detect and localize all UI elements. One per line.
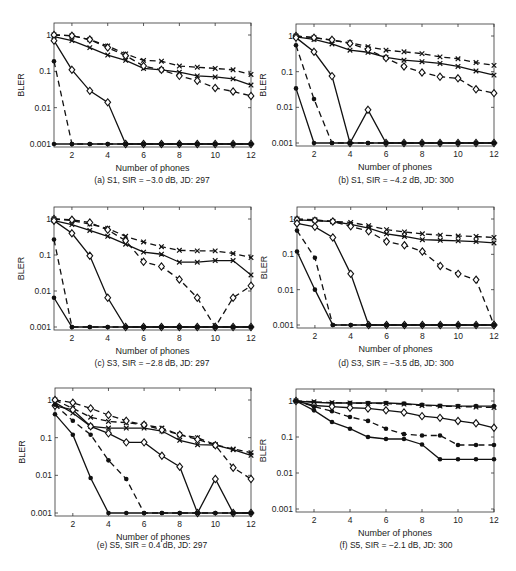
panel-b-xtick-label: 2 — [312, 149, 317, 159]
panel-e-point-solid-dot — [249, 511, 254, 516]
panel-f-caption: (f) S5, SIR = −2.1 dB, JD: 300 — [340, 540, 453, 550]
panel-a-series-dashed-dot — [52, 59, 254, 146]
panel-c-xtick-label: 10 — [210, 333, 220, 343]
panel-a-point-solid-dot — [195, 142, 200, 147]
panel-a-ylabel: BLER — [16, 73, 26, 97]
panel-b-point-dashed-diamond — [473, 86, 479, 93]
panel-c-point-dashed-x — [195, 249, 200, 254]
panel-b-point-dashed-diamond — [437, 73, 443, 80]
panel-c-series-dashed-dot — [52, 237, 254, 329]
panel-f-point-solid-diamond — [365, 405, 371, 412]
panel-d-point-solid-dot — [492, 323, 497, 328]
panel-e-point-solid-dot — [88, 476, 93, 481]
panel-c-series-dashed-diamond — [51, 215, 254, 330]
panel-b-point-dashed-diamond — [455, 75, 461, 82]
panel-f-point-solid-diamond — [473, 420, 479, 427]
panel-d-point-dashed-diamond — [402, 242, 408, 249]
panel-e-point-solid-diamond — [106, 430, 112, 437]
panel-f-point-solid-diamond — [437, 414, 443, 421]
panel-b-series-solid-x — [294, 34, 497, 77]
panel-d-point-dashed-dot — [313, 255, 318, 260]
panel-f-point-dashed-dot — [330, 409, 335, 414]
panel-b-point-solid-dot — [348, 141, 353, 146]
panel-f-point-solid-dot — [294, 399, 299, 404]
panel-d-ytick-label: 0.001 — [273, 320, 295, 330]
panel-c-point-solid-dot — [177, 325, 182, 330]
panel-b-line-solid-diamond — [296, 38, 494, 143]
panel-d: (d) S3, SIR = −3.5 dB, JD: 300 10.10.010… — [259, 207, 499, 368]
panel-c-xtick-label: 12 — [246, 333, 256, 343]
panel-b-series-solid-dot — [294, 86, 497, 145]
panel-a-point-solid-dot — [105, 142, 110, 147]
panel-d-point-solid-dot — [313, 287, 318, 292]
panel-e-point-dashed-diamond — [70, 399, 76, 406]
panel-c-point-solid-dot — [141, 325, 146, 330]
panel-c-ytick-label: 0.001 — [30, 322, 52, 332]
panel-f-point-solid-dot — [312, 408, 317, 413]
panel-d-ylabel: BLER — [259, 255, 269, 279]
panel-c-point-solid-dot — [231, 325, 236, 330]
panel-b-point-solid-dot — [402, 141, 407, 146]
panel-b-xtick-label: 6 — [384, 149, 389, 159]
panel-d-xtick-label: 10 — [453, 331, 463, 341]
panel-f-xtick-label: 10 — [453, 515, 463, 525]
panel-a-point-solid-dot — [70, 142, 75, 147]
panel-b-point-solid-dot — [492, 141, 497, 146]
panel-d-line-solid-diamond — [297, 223, 494, 325]
panel-d-xtick-label: 8 — [420, 331, 425, 341]
panel-e-point-solid-diamond — [141, 439, 147, 446]
panel-e-ytick-label: 0.1 — [40, 433, 52, 443]
panel-a-xtick-label: 8 — [177, 150, 182, 160]
panel-d-point-solid-dot — [366, 323, 371, 328]
panel-e-point-solid-dot — [231, 511, 236, 516]
panel-e-point-solid-dot — [142, 511, 147, 516]
panel-e-line-solid-x — [55, 403, 251, 456]
panel-d-line-solid-dot — [297, 252, 494, 325]
panel-b-point-solid-dot — [366, 141, 371, 146]
panel-b-point-solid-dot — [456, 141, 461, 146]
panel-b-ytick-label: 0.01 — [276, 102, 293, 112]
panel-d-xtick-label: 2 — [313, 331, 318, 341]
panel-c: (c) S3, SIR = −2.8 dB, JD: 297 10.10.010… — [16, 207, 256, 368]
panel-c-axes-frame — [54, 207, 251, 330]
panel-b-caption: (b) S1, SIR = −4.2 dB, JD: 300 — [338, 175, 454, 185]
panel-d-xtick-label: 4 — [348, 331, 353, 341]
panel-a-ytick-label: 0.1 — [39, 66, 51, 76]
panel-e-xlabel: Number of phones — [116, 532, 191, 542]
panel-e-ylabel: BLER — [17, 440, 27, 464]
panel-c-point-solid-dot — [88, 325, 93, 330]
panel-b-point-dashed-dot — [312, 97, 317, 102]
panel-f-ytick-label: 0.001 — [272, 504, 294, 514]
panel-f-xtick-label: 4 — [348, 515, 353, 525]
panel-e-point-dashed-diamond — [88, 405, 94, 412]
panel-e-point-solid-dot — [106, 511, 111, 516]
panel-e-point-dashed-dot — [88, 432, 93, 437]
panel-b-point-solid-dot — [294, 86, 299, 91]
panel-c-xtick-label: 2 — [70, 333, 75, 343]
panel-b-xtick-label: 4 — [348, 149, 353, 159]
panel-a-point-solid-dot — [159, 142, 164, 147]
panel-f-xtick-label: 2 — [312, 515, 317, 525]
panel-c-series-solid-dot — [52, 295, 254, 329]
panel-d-axes-frame — [297, 207, 494, 328]
panel-d-ytick-label: 1 — [289, 214, 294, 224]
panel-d-xtick-label: 12 — [489, 331, 499, 341]
panel-e-point-dashed-diamond — [106, 411, 112, 418]
panel-f-series-dashed-x — [294, 399, 497, 410]
panel-a-axes-frame — [54, 23, 251, 147]
panel-c-line-solid-diamond — [54, 221, 251, 327]
panel-d-point-solid-dot — [331, 323, 336, 328]
panel-a: (a) S1, SIR = −3.0 dB, JD: 297 10.10.010… — [16, 23, 256, 185]
panel-d-point-solid-diamond — [312, 223, 318, 230]
panel-e-point-solid-dot — [71, 432, 76, 437]
panel-b-xtick-label: 12 — [489, 149, 499, 159]
panel-c-point-solid-dot — [249, 325, 254, 330]
panel-e-point-solid-dot — [160, 511, 165, 516]
panel-a-series-solid-dot — [52, 142, 254, 147]
panel-f-point-solid-dot — [366, 435, 371, 440]
panel-e-xtick-label: 12 — [246, 519, 256, 529]
panel-d-point-solid-dot — [438, 323, 443, 328]
panel-e-point-solid-diamond — [177, 463, 183, 470]
panel-e-point-solid-dot — [177, 511, 182, 516]
panel-d-point-dashed-dot — [295, 228, 300, 233]
